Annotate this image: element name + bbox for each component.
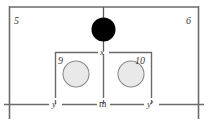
dimension-label-y-prime: y′: [147, 100, 153, 109]
reference-number-6: 6: [186, 16, 191, 26]
filled-black-circle: [92, 18, 116, 42]
dimension-label-m: m: [99, 100, 106, 110]
dimension-label-x: x: [100, 48, 104, 57]
left-gray-circle: [63, 61, 89, 87]
reference-number-9: 9: [58, 56, 63, 66]
schematic-figure: 5 6 9 10 x y m y′: [0, 0, 208, 123]
dimension-label-y: y: [52, 100, 56, 109]
reference-number-10: 10: [135, 56, 145, 66]
reference-number-5: 5: [14, 16, 19, 26]
